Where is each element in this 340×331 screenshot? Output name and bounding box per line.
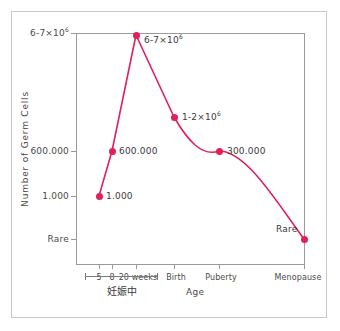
y-tick-label: 1.000	[42, 191, 69, 201]
data-point	[171, 114, 178, 121]
data-label-rare: Rare	[276, 224, 297, 234]
x-axis-title: Age	[186, 287, 204, 297]
y-tick-label: Rare	[48, 234, 69, 244]
data-label-600000: 600.000	[119, 146, 158, 156]
pregnancy-span-label: 妊娠中	[85, 283, 158, 298]
data-point	[109, 148, 116, 155]
data-point	[96, 193, 103, 200]
data-label-1000: 1.000	[106, 191, 133, 201]
data-label-peak: 6-7×106	[144, 35, 183, 45]
pregnancy-span-bracket	[85, 273, 158, 280]
x-tick-label-birth: Birth	[166, 273, 186, 282]
data-label-300000: 300.000	[227, 146, 266, 156]
data-point	[216, 148, 223, 155]
x-tick-label-puberty: Puberty	[205, 273, 237, 282]
x-tick-label-menopause: Menopause	[275, 273, 322, 282]
chart-figure: Number of Germ Cells Rare 1.000 600.000	[0, 0, 340, 331]
y-tick-label: 600.000	[30, 146, 69, 156]
y-tick-label: 6-7×106	[30, 28, 69, 38]
plot-area: Rare 1.000 600.000 6-7×106 5	[76, 33, 305, 265]
data-point	[133, 32, 140, 39]
data-label-birth: 1-2×106	[182, 112, 221, 122]
data-point	[301, 236, 308, 243]
